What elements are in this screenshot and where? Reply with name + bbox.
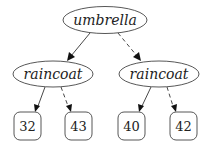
raincoat-right-label: raincoat bbox=[130, 66, 189, 82]
arrowhead-icon bbox=[66, 104, 72, 112]
arrowhead-icon bbox=[138, 104, 144, 112]
arrowhead-icon bbox=[133, 52, 141, 61]
raincoat-left-label: raincoat bbox=[24, 66, 83, 82]
edge-raincoat-right-to-40 bbox=[142, 87, 151, 106]
arrowhead-icon bbox=[171, 104, 177, 112]
leaf-label: 32 bbox=[19, 119, 36, 134]
leaf-43: 43 bbox=[65, 112, 92, 140]
arrowhead-icon bbox=[34, 104, 40, 112]
edge-raincoat-right-to-42 bbox=[167, 87, 173, 106]
leaf-42: 42 bbox=[170, 112, 197, 140]
leaf-label: 43 bbox=[70, 119, 87, 134]
arrowhead-icon bbox=[67, 52, 75, 61]
root-label: umbrella bbox=[73, 12, 137, 28]
edge-raincoat-left-to-43 bbox=[61, 87, 68, 106]
edge-raincoat-left-to-32 bbox=[38, 87, 45, 106]
node-root: umbrella bbox=[63, 7, 147, 34]
leaf-label: 42 bbox=[175, 119, 192, 134]
node-raincoat-right: raincoat bbox=[119, 61, 199, 87]
leaf-40: 40 bbox=[118, 112, 145, 140]
decision-tree-diagram: umbrella raincoat raincoat 32 43 40 42 bbox=[0, 0, 211, 148]
edge-umbrella-to-raincoat-left bbox=[71, 33, 90, 56]
edge-umbrella-to-raincoat-right bbox=[118, 33, 137, 56]
node-raincoat-left: raincoat bbox=[13, 61, 93, 87]
leaf-32: 32 bbox=[14, 112, 41, 140]
leaf-label: 40 bbox=[123, 119, 140, 134]
